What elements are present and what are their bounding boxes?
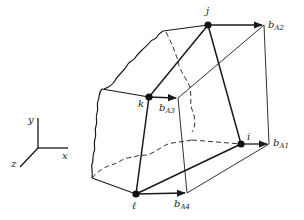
node-j — [204, 21, 211, 28]
edge-k-l — [136, 97, 149, 194]
axes-triad — [20, 118, 68, 167]
vector-bA2-label: bA2 — [268, 19, 284, 32]
box-bA4-bA1 — [187, 144, 269, 193]
left-face-edge-to-k — [102, 89, 149, 97]
node-l-label: ℓ — [132, 200, 136, 211]
displacement-vectors — [136, 25, 267, 194]
element-edges — [136, 25, 241, 194]
node-k-label: k — [138, 98, 144, 109]
bottom-edge-to-l — [92, 178, 136, 194]
vector-bA1-label: bA1 — [273, 137, 289, 150]
node-i — [237, 140, 244, 147]
element-deformation-diagram: y x z — [0, 0, 304, 220]
edge-j-i — [208, 25, 241, 144]
vector-bA3-label: bA3 — [159, 102, 175, 115]
node-k — [145, 93, 152, 100]
node-j-label: j — [204, 5, 209, 16]
dashed-back-to-i — [192, 140, 241, 144]
z-axis-line — [20, 148, 38, 167]
wavy-left-edge — [92, 89, 102, 178]
node-l — [132, 190, 139, 197]
vector-bA4 — [136, 193, 185, 194]
box-bA2-bA1 — [264, 25, 269, 144]
node-i-label: i — [247, 131, 250, 142]
y-axis-label: y — [27, 114, 34, 125]
top-edge-to-j — [163, 25, 208, 31]
z-axis-label: z — [10, 158, 17, 169]
vector-bA4-label: bA4 — [174, 198, 190, 211]
hidden-edges — [92, 32, 241, 178]
vector-bA3 — [149, 97, 176, 98]
box-bA3-bA4 — [178, 98, 187, 193]
edge-l-i — [136, 144, 241, 194]
x-axis-label: x — [62, 150, 68, 161]
wavy-top-edge — [104, 31, 163, 89]
box-bA3-bA2 — [178, 25, 264, 98]
